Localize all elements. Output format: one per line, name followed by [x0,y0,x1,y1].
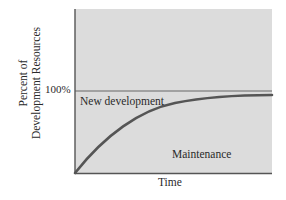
chart: Percent of Development Resources 100% Ne… [0,0,286,200]
x-axis-label: Time [158,176,182,188]
y-axis-label-line-2: Development Resources [30,27,43,139]
y-tick-100: 100% [45,83,71,95]
y-axis-label-line-1: Percent of [17,27,30,139]
new-development-label: New development [80,95,164,107]
y-axis-label: Percent of Development Resources [12,13,48,153]
maintenance-label: Maintenance [172,148,231,160]
